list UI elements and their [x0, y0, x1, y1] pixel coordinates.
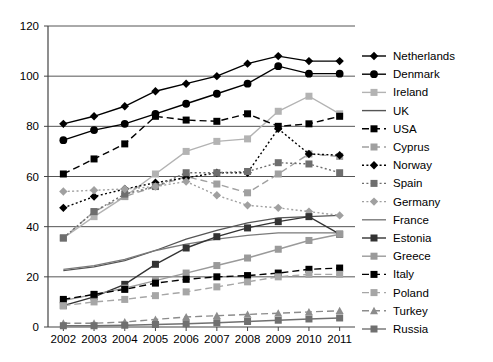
legend-label: Spain [393, 177, 422, 189]
data-point-marker [183, 270, 190, 277]
data-point-marker [213, 169, 220, 176]
data-point-marker [275, 108, 282, 115]
x-axis-tick-label: 2011 [327, 333, 352, 345]
data-point-marker [244, 278, 251, 285]
data-point-marker [244, 135, 251, 142]
data-point-marker [152, 261, 159, 268]
data-point-marker [336, 169, 343, 176]
series-line [63, 114, 339, 174]
y-axis-tick-label: 0 [33, 321, 39, 333]
data-point-marker [152, 321, 159, 328]
x-axis-tick-label: 2006 [173, 333, 199, 345]
x-axis-tick-label: 2003 [81, 333, 107, 345]
data-point-marker [152, 292, 159, 299]
legend-item-estonia[interactable]: Estonia [362, 232, 432, 244]
legend-label: Poland [393, 287, 429, 299]
data-point-marker [183, 288, 190, 295]
data-point-marker [213, 90, 221, 98]
data-series-denmark [59, 62, 343, 144]
x-axis-tick-label: 2008 [235, 333, 261, 345]
data-point-marker [243, 201, 251, 209]
legend-label: Russia [393, 323, 429, 335]
y-axis-tick-label: 80 [26, 120, 39, 132]
legend-label: Denmark [393, 68, 440, 80]
legend-item-ireland[interactable]: Ireland [362, 86, 428, 98]
x-axis-tick-label: 2010 [296, 333, 322, 345]
legend-swatch-marker [371, 271, 378, 278]
data-point-marker [305, 271, 312, 278]
data-point-marker [275, 218, 282, 225]
data-point-marker [183, 117, 190, 124]
data-series-france [63, 233, 339, 269]
data-point-marker [213, 118, 220, 125]
data-point-marker [59, 204, 67, 212]
legend-item-turkey[interactable]: Turkey [362, 305, 428, 317]
data-point-marker [275, 273, 282, 280]
data-point-marker [213, 319, 220, 326]
legend-item-denmark[interactable]: Denmark [362, 68, 440, 80]
data-series-italy [60, 265, 343, 303]
data-point-marker [121, 286, 128, 293]
legend-item-cyprus[interactable]: Cyprus [362, 141, 430, 153]
y-axis-tick-label: 60 [26, 171, 39, 183]
data-point-marker [274, 62, 282, 70]
data-point-marker [183, 320, 190, 327]
legend-item-uk[interactable]: UK [362, 105, 409, 117]
legend-item-netherlands[interactable]: Netherlands [362, 50, 455, 62]
data-point-marker [305, 93, 312, 100]
data-point-marker [275, 170, 282, 177]
data-point-marker [213, 233, 220, 240]
data-point-marker [183, 169, 190, 176]
data-point-marker [244, 168, 251, 175]
legend-item-france[interactable]: France [362, 214, 429, 226]
series-line [63, 233, 339, 269]
data-point-marker [305, 120, 312, 127]
data-point-marker [60, 322, 67, 329]
legend-label: Ireland [393, 86, 428, 98]
y-axis-tick-label: 100 [20, 70, 39, 82]
x-axis-tick-label: 2005 [143, 333, 169, 345]
legend-item-usa[interactable]: USA [362, 123, 417, 135]
data-point-marker [59, 136, 67, 144]
legend-swatch-marker [371, 235, 378, 242]
series-line [63, 129, 339, 208]
data-point-marker [244, 318, 251, 325]
data-series-ireland [60, 93, 343, 242]
series-line [63, 311, 339, 324]
y-axis-tick-label: 20 [26, 271, 39, 283]
data-point-marker [91, 155, 98, 162]
data-point-marker [90, 186, 98, 194]
data-point-marker [244, 272, 251, 279]
data-point-marker [213, 181, 220, 188]
data-point-marker [305, 160, 312, 167]
legend-item-russia[interactable]: Russia [362, 323, 429, 335]
legend-swatch-marker [371, 326, 378, 333]
legend-swatch-marker [371, 253, 378, 260]
legend-swatch-marker [371, 289, 378, 296]
data-point-marker [121, 296, 128, 303]
data-series-germany [59, 177, 344, 219]
series-line [63, 154, 339, 238]
data-point-marker [183, 244, 190, 251]
series-line [63, 318, 339, 326]
legend-item-italy[interactable]: Italy [362, 268, 414, 280]
data-point-marker [213, 72, 221, 80]
legend-swatch-marker [370, 197, 378, 205]
data-point-marker [121, 322, 128, 329]
data-point-marker [243, 59, 251, 67]
legend-item-poland[interactable]: Poland [362, 287, 429, 299]
data-point-marker [152, 280, 159, 287]
legend-label: Greece [393, 250, 431, 262]
data-point-marker [244, 224, 251, 231]
legend-label: Turkey [393, 305, 428, 317]
legend-item-norway[interactable]: Norway [362, 159, 432, 171]
legend-item-germany[interactable]: Germany [362, 196, 441, 208]
data-point-marker [151, 87, 159, 95]
data-point-marker [244, 189, 251, 196]
series-line [63, 268, 339, 299]
legend-item-greece[interactable]: Greece [362, 250, 431, 262]
data-point-marker [275, 159, 282, 166]
data-point-marker [274, 52, 282, 60]
data-series-norway [59, 125, 344, 212]
legend-item-spain[interactable]: Spain [362, 177, 422, 189]
